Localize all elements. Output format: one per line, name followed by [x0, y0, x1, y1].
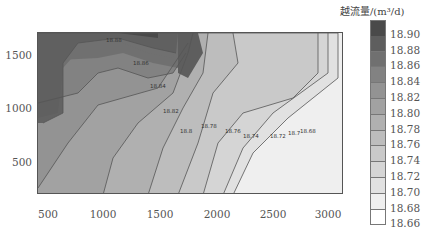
- y-tick: 1500: [0, 49, 32, 61]
- colorbar-label: 18.68: [390, 202, 420, 214]
- colorbar-label: 18.90: [390, 28, 420, 40]
- contour-label: 18.82: [163, 108, 179, 114]
- colorbar-label: 18.84: [390, 75, 420, 87]
- x-tick: 2500: [253, 208, 293, 220]
- colorbar-swatch: [370, 131, 386, 147]
- colorbar-label: 18.88: [390, 44, 420, 56]
- colorbar-swatch: [370, 36, 386, 52]
- contour-label: 18.78: [201, 123, 217, 129]
- colorbar-label: 18.74: [390, 154, 420, 166]
- x-tick: 1000: [83, 208, 123, 220]
- colorbar-swatch: [370, 178, 386, 194]
- contour-label: 18.84: [150, 83, 166, 89]
- colorbar-swatch: [370, 52, 386, 68]
- colorbar-label: 18.66: [390, 217, 420, 229]
- colorbar-label: 18.72: [390, 170, 420, 182]
- x-tick: 500: [28, 208, 68, 220]
- x-tick: 1500: [140, 208, 180, 220]
- x-tick: 2000: [197, 208, 237, 220]
- colorbar-swatch: [370, 194, 386, 210]
- colorbar: [370, 20, 386, 242]
- contour-label: 18.8: [180, 128, 193, 134]
- colorbar-swatch: [370, 162, 386, 178]
- colorbar-label: 18.70: [390, 186, 420, 198]
- y-tick: 500: [0, 156, 32, 168]
- colorbar-swatch: [370, 210, 386, 226]
- colorbar-label: 18.76: [390, 138, 420, 150]
- contour-label: 18.86: [133, 60, 149, 66]
- contour-label: 18.76: [225, 128, 241, 134]
- contour-label: 18.72: [270, 133, 286, 139]
- colorbar-label: 18.86: [390, 59, 420, 71]
- colorbar-swatch: [370, 67, 386, 83]
- y-tick: 1000: [0, 102, 32, 114]
- colorbar-label: 18.82: [390, 91, 420, 103]
- contour-svg: 18.88 18.86 18.84 18.82 18.8 18.78 18.76…: [38, 33, 343, 194]
- colorbar-swatch: [370, 115, 386, 131]
- contour-plot-area: 18.88 18.86 18.84 18.82 18.8 18.78 18.76…: [37, 32, 343, 194]
- colorbar-title: 越流量/(m³/d): [340, 3, 404, 18]
- colorbar-swatch: [370, 20, 386, 37]
- colorbar-label: 18.80: [390, 107, 420, 119]
- colorbar-swatch: [370, 99, 386, 115]
- colorbar-swatch: [370, 83, 386, 99]
- contour-label: 18.68: [300, 128, 316, 134]
- colorbar-swatch: [370, 146, 386, 162]
- contour-label: 18.74: [243, 133, 259, 139]
- x-tick: 3000: [308, 208, 348, 220]
- colorbar-label: 18.78: [390, 123, 420, 135]
- contour-label: 18.7: [288, 130, 301, 136]
- contour-label: 18.88: [106, 37, 122, 43]
